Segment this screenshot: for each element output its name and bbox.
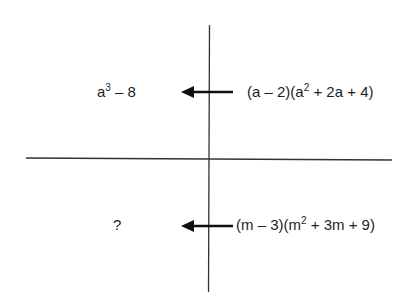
bottom-left-question: ?: [113, 216, 121, 233]
bottom-right-expression: (m – 3)(m2 + 3m + 9): [236, 216, 375, 236]
top-left-expression: a3 – 8: [97, 83, 136, 103]
bottom-left-expression: ?: [113, 216, 121, 234]
arrow-left-icon-bottom: [181, 220, 233, 232]
arrow-left-icon-top: [181, 86, 233, 98]
top-left-exponent: 3: [105, 82, 111, 93]
quadrant-axes: [0, 0, 407, 303]
bottom-right-part1: (m – 3)(m: [236, 216, 301, 233]
top-right-expression: (a – 2)(a2 + 2a + 4): [247, 83, 373, 103]
top-left-rest: – 8: [111, 83, 136, 100]
top-right-part1: (a – 2)(a: [247, 83, 304, 100]
bottom-right-part2: + 3m + 9): [307, 216, 375, 233]
top-right-exponent: 2: [304, 82, 310, 93]
bottom-right-exponent: 2: [301, 215, 307, 226]
top-right-part2: + 2a + 4): [309, 83, 373, 100]
